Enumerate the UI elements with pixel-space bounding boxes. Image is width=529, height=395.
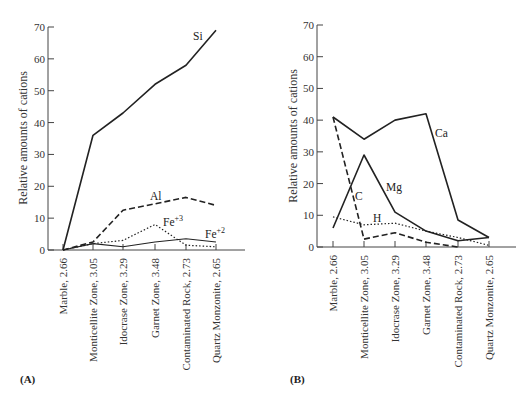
- x-category-label: Quartz Monzonite, 2.65: [483, 255, 495, 361]
- y-axis-title-b: Relative amounts of cations: [286, 69, 300, 203]
- y-tick-label: 10: [303, 209, 315, 221]
- series-line-al: [63, 197, 216, 250]
- y-tick-label: 70: [303, 19, 315, 31]
- x-category-label: Idocrase Zone, 3.29: [389, 255, 401, 343]
- y-tick-label: 20: [34, 180, 46, 192]
- y-tick-label: 40: [34, 117, 46, 129]
- x-category-label: Garnet Zone, 3.48: [420, 255, 432, 336]
- label-mg: Mg: [386, 181, 402, 194]
- label-ca: Ca: [435, 127, 448, 139]
- y-tick-label: 10: [34, 212, 46, 224]
- label-si: Si: [193, 30, 203, 42]
- axes-b: 010203040506070Marble, 2.66Monticellite …: [303, 19, 516, 367]
- series-b: [333, 114, 489, 247]
- y-tick-label: 60: [303, 51, 315, 63]
- y-tick-label: 60: [34, 53, 46, 65]
- panel-b: Relative amounts of cations 010203040506…: [286, 19, 516, 386]
- series-line-ca: [333, 114, 489, 238]
- x-category-label: Monticellite Zone, 3.05: [358, 255, 370, 359]
- label-al: Al: [150, 190, 162, 202]
- y-tick-label: 30: [34, 148, 46, 160]
- y-tick-label: 70: [34, 21, 46, 33]
- series-a: [63, 30, 216, 250]
- axes-a: 010203040506070Marble, 2.66Monticellite …: [34, 21, 245, 370]
- y-tick-label: 30: [303, 146, 315, 158]
- label-h: H: [373, 212, 381, 224]
- x-category-label: Quartz Monzonite, 2.65: [210, 258, 222, 364]
- series-line-si: [63, 30, 216, 250]
- figure: Relative amounts of cations 010203040506…: [0, 0, 529, 395]
- x-category-label: Marble, 2.66: [57, 258, 69, 315]
- panel-label-b: (B): [290, 373, 305, 386]
- x-category-label: Contaminated Rock, 2.73: [180, 258, 192, 371]
- panel-label-a: (A): [20, 373, 36, 386]
- y-tick-label: 20: [303, 178, 315, 190]
- y-tick-label: 40: [303, 114, 315, 126]
- x-category-label: Garnet Zone, 3.48: [149, 258, 161, 339]
- y-tick-label: 50: [34, 85, 46, 97]
- label-fe2: Fe+2: [205, 226, 225, 240]
- x-category-label: Marble, 2.66: [327, 255, 339, 312]
- x-category-label: Contaminated Rock, 2.73: [452, 255, 464, 368]
- series-line-fe3: [63, 225, 216, 251]
- x-category-label: Monticellite Zone, 3.05: [87, 258, 99, 362]
- label-fe3: Fe+3: [163, 214, 183, 228]
- label-c: C: [355, 190, 363, 202]
- y-tick-label: 0: [309, 241, 315, 253]
- panel-a: Relative amounts of cations 010203040506…: [16, 21, 245, 386]
- y-tick-label: 0: [40, 244, 46, 256]
- y-tick-label: 50: [303, 82, 315, 94]
- x-category-label: Idocrase Zone, 3.29: [117, 258, 129, 346]
- y-axis-title-a: Relative amounts of cations: [16, 71, 30, 205]
